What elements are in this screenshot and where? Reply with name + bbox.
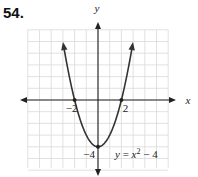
parabola-graph: yx−22−4y = x2 − 4: [0, 0, 198, 177]
tick-label-y: −4: [83, 148, 95, 160]
x-axis-right-arrow-icon: [169, 97, 176, 103]
y-axis-up-arrow-icon: [95, 22, 101, 29]
curve-right-arrow-icon: [129, 42, 135, 50]
axis-labels: yx−22−4y = x2 − 4: [66, 2, 191, 160]
x-axis-left-arrow-icon: [20, 97, 27, 103]
x-axis-label: x: [185, 94, 191, 106]
tick-label-x: −2: [66, 102, 78, 114]
tick-label-x: 2: [123, 102, 129, 114]
y-axis-down-arrow-icon: [95, 169, 101, 176]
point-marker: [96, 145, 100, 149]
curve-left-arrow-icon: [61, 42, 67, 50]
equation-label: y = x2 − 4: [114, 147, 158, 160]
y-axis-label: y: [94, 2, 100, 14]
